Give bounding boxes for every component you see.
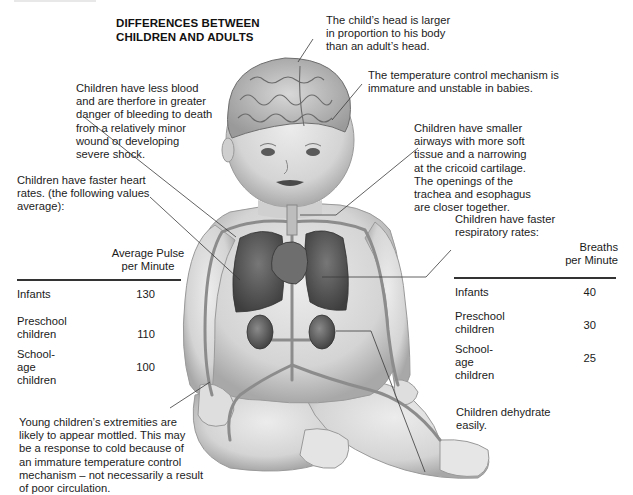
header-line: Breaths [558, 241, 618, 254]
pulse-row-label: School-age children [17, 348, 56, 388]
callout-line: than an adult’s head. [326, 40, 450, 53]
breath-row-label: School-age children [455, 343, 494, 383]
pulse-row-value: 110 [120, 328, 155, 341]
header-line: Average Pulse [105, 247, 191, 260]
right-lung [305, 231, 349, 311]
callout-line: rates. (the following values [17, 187, 149, 200]
row-label-line: Preschool [455, 310, 505, 323]
row-label-line: School-age [17, 348, 56, 374]
callout-line: an immature temperature control [19, 456, 203, 469]
callout-line: airways with more soft [414, 135, 531, 148]
breath-row-label: Infants [455, 286, 489, 299]
pulse-row-value: 130 [120, 288, 155, 301]
row-label-line: Infants [455, 286, 489, 299]
pulse-row-label: Preschool children [17, 315, 67, 341]
pulse-table-header: Average Pulse per Minute [105, 247, 191, 273]
callout-blood: Children have less blood and are therfor… [76, 82, 212, 161]
head [222, 58, 354, 219]
breath-table-header: Breaths per Minute [558, 241, 618, 267]
callout-line: danger of bleeding to death [76, 108, 212, 121]
row-label-line: Infants [17, 288, 51, 301]
callout-line: Children have smaller [414, 122, 531, 135]
callout-line: The child’s head is larger [326, 14, 450, 27]
pulse-table-rule [17, 279, 181, 281]
row-label-line: children [455, 323, 505, 336]
callout-line: trachea and esophagus [414, 188, 531, 201]
title-line-1: DIFFERENCES BETWEEN [116, 17, 260, 31]
callout-line: average): [17, 200, 149, 213]
breath-row-value: 40 [568, 286, 596, 299]
callout-line: and are therfore in greater [76, 95, 212, 108]
breath-row-label: Preschool children [455, 310, 505, 336]
row-label-line: children [455, 369, 494, 382]
callout-line: at the cricoid cartilage. [414, 162, 531, 175]
left-kidney [247, 315, 273, 349]
callout-line: Children dehydrate [456, 406, 551, 419]
pulse-row-label: Infants [17, 288, 51, 301]
callout-line: from a relatively minor [76, 122, 212, 135]
callout-line: Young children’s extremities are [19, 416, 203, 429]
callout-line: in proportion to his body [326, 27, 450, 40]
callout-head-size: The child’s head is larger in proportion… [326, 14, 450, 54]
callout-dehydrate: Children dehydrate easily. [456, 406, 551, 432]
callout-line: tissue and a narrowing [414, 148, 531, 161]
callout-line: wound or developing [76, 135, 212, 148]
diagram-title: DIFFERENCES BETWEEN CHILDREN AND ADULTS [116, 17, 260, 44]
right-kidney [309, 315, 335, 349]
callout-line: be a response to cold because of [19, 442, 203, 455]
callout-line: of poor circulation. [19, 482, 203, 495]
callout-respiratory: Children have faster respiratory rates: [455, 213, 555, 239]
callout-airways: Children have smaller airways with more … [414, 122, 531, 214]
trachea [287, 205, 297, 235]
callout-line: respiratory rates: [455, 226, 555, 239]
breath-table-rule [454, 277, 616, 279]
row-label-line: children [17, 374, 56, 387]
callout-heart-rate: Children have faster heart rates. (the f… [17, 174, 149, 214]
callout-line: The openings of the [414, 175, 531, 188]
callout-line: mechanism – not necessarily a result [19, 469, 203, 482]
pulse-row-value: 100 [120, 361, 155, 374]
callout-line: Children have faster [455, 213, 555, 226]
row-label-line: Preschool [17, 315, 67, 328]
row-label-line: School-age [455, 343, 494, 369]
callout-temperature: The temperature control mechanism is imm… [368, 69, 559, 95]
row-label-line: children [17, 328, 67, 341]
breath-row-value: 25 [568, 352, 596, 365]
header-line: per Minute [105, 260, 191, 273]
callout-line: immature and unstable in babies. [368, 82, 559, 95]
callout-line: severe shock. [76, 148, 212, 161]
callout-line: Children have faster heart [17, 174, 149, 187]
header-line: per Minute [558, 254, 618, 267]
callout-extremities: Young children’s extremities are likely … [19, 416, 203, 495]
callout-line: Children have less blood [76, 82, 212, 95]
title-line-2: CHILDREN AND ADULTS [116, 31, 260, 45]
callout-line: likely to appear mottled. This may [19, 429, 203, 442]
callout-line: easily. [456, 419, 551, 432]
callout-line: The temperature control mechanism is [368, 69, 559, 82]
breath-row-value: 30 [568, 319, 596, 332]
